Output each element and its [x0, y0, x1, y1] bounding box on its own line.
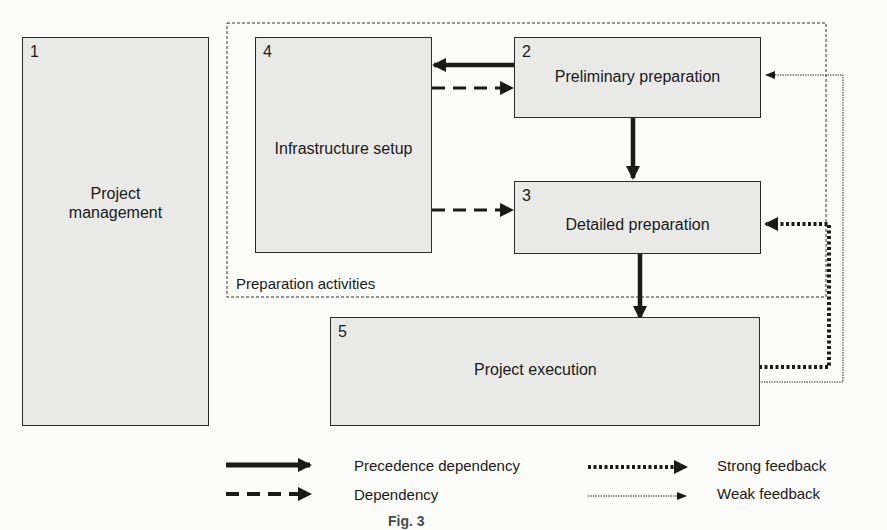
box-label: Infrastructure setup [256, 139, 431, 158]
box-label: Preliminary preparation [515, 67, 760, 86]
legend-label-weak-feedback: Weak feedback [717, 486, 820, 501]
box-infrastructure-setup: 4 Infrastructure setup [255, 37, 432, 253]
figure-caption: Fig. 3 [388, 513, 425, 529]
legend-label-dependency: Dependency [354, 487, 438, 502]
box-detailed-preparation: 3 Detailed preparation [514, 181, 761, 254]
diagram-canvas: 1 Project management 4 Infrastructure se… [0, 0, 887, 530]
box-preliminary-preparation: 2 Preliminary preparation [514, 37, 761, 118]
legend-label-precedence: Precedence dependency [354, 458, 520, 473]
box-label: Project management [23, 184, 208, 222]
box-number: 4 [263, 44, 272, 60]
box-label: Project execution [474, 360, 759, 379]
box-number: 3 [522, 188, 531, 204]
box-project-execution: 5 Project execution [330, 317, 760, 426]
box-number: 5 [338, 324, 347, 340]
box-number: 1 [30, 44, 39, 60]
box-project-management-frame: 1 Project management [22, 37, 209, 426]
edge-5-to-3-strong-feedback [759, 224, 829, 367]
box-label: Detailed preparation [515, 215, 760, 234]
preparation-activities-label: Preparation activities [236, 276, 375, 291]
legend-label-strong-feedback: Strong feedback [717, 458, 826, 473]
box-number: 2 [522, 44, 531, 60]
